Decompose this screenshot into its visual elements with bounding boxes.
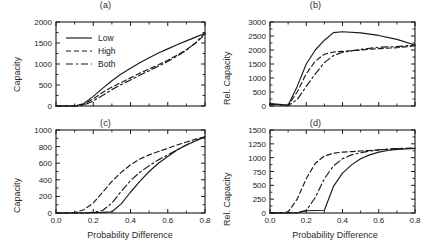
series-high	[56, 137, 205, 213]
svg-text:1500: 1500	[34, 39, 52, 48]
svg-text:500: 500	[39, 81, 53, 90]
panel-a: (a) Capacity 0500100015002000LowHighBoth	[0, 0, 211, 124]
series-high	[56, 35, 205, 106]
panel-d-plot: 02505007501000125015000.00.20.40.60.8	[210, 118, 421, 248]
svg-text:400: 400	[39, 176, 53, 185]
svg-text:0.4: 0.4	[337, 216, 349, 225]
series-low	[56, 137, 205, 213]
svg-text:750: 750	[253, 168, 267, 177]
svg-text:1000: 1000	[248, 74, 266, 83]
svg-text:1250: 1250	[248, 140, 266, 149]
legend-label-low: Low	[98, 33, 114, 43]
series-high	[270, 148, 415, 213]
svg-text:0: 0	[48, 102, 53, 111]
series-both	[56, 33, 205, 106]
svg-text:2000: 2000	[34, 18, 52, 27]
svg-text:800: 800	[39, 143, 53, 152]
panel-b: (b) Rel. Capacity 0500100015002000250030…	[210, 0, 421, 124]
panel-b-plot: 050010001500200025003000	[210, 0, 421, 124]
panel-d: (d) Rel. Capacity Probability Difference…	[210, 118, 421, 248]
svg-text:600: 600	[39, 159, 53, 168]
svg-text:3000: 3000	[248, 18, 266, 27]
svg-text:0.0: 0.0	[50, 216, 62, 225]
svg-text:1000: 1000	[34, 60, 52, 69]
panel-c-plot: 020040060080010000.00.20.40.60.8	[0, 118, 211, 248]
svg-text:500: 500	[253, 88, 267, 97]
svg-text:0: 0	[262, 102, 267, 111]
svg-text:0.2: 0.2	[301, 216, 313, 225]
panel-c: (c) Capacity Probability Difference 0200…	[0, 118, 211, 248]
svg-text:0.0: 0.0	[264, 216, 276, 225]
svg-text:1500: 1500	[248, 126, 266, 135]
svg-text:0.4: 0.4	[125, 216, 137, 225]
svg-text:0.8: 0.8	[409, 216, 421, 225]
series-both	[270, 148, 415, 213]
svg-text:500: 500	[253, 181, 267, 190]
series-both	[56, 137, 205, 213]
legend-label-both: Both	[98, 59, 116, 69]
svg-text:1000: 1000	[34, 126, 52, 135]
svg-text:2500: 2500	[248, 32, 266, 41]
svg-text:0.6: 0.6	[373, 216, 385, 225]
svg-text:250: 250	[253, 195, 267, 204]
svg-text:1000: 1000	[248, 154, 266, 163]
svg-text:0.2: 0.2	[88, 216, 100, 225]
svg-text:0.6: 0.6	[162, 216, 174, 225]
panel-a-plot: 0500100015002000LowHighBoth	[0, 0, 211, 124]
figure-container: (a) Capacity 0500100015002000LowHighBoth…	[0, 0, 421, 248]
svg-text:2000: 2000	[248, 46, 266, 55]
svg-text:200: 200	[39, 192, 53, 201]
series-low	[270, 32, 415, 105]
legend-label-high: High	[98, 46, 116, 56]
series-low	[56, 33, 205, 106]
svg-text:1500: 1500	[248, 60, 266, 69]
